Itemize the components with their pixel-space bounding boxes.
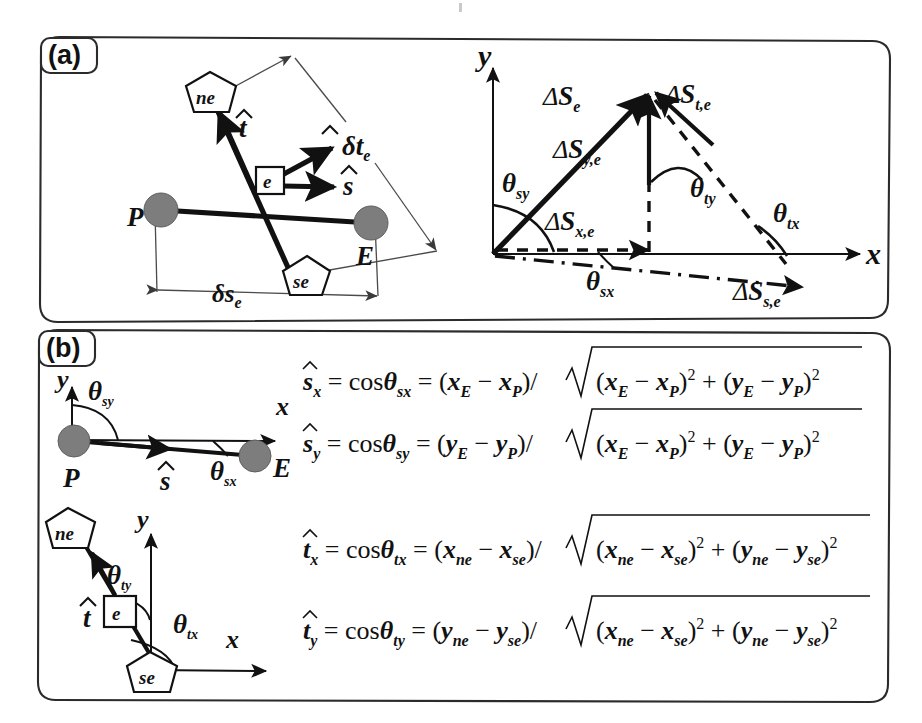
pentagon-se-b-label: se	[138, 667, 155, 688]
equation-s-hat-y-text: sy = cosθsy = (yE − yP)/	[302, 429, 534, 463]
node-P-dot-b	[58, 425, 90, 457]
delta-s-e-label: δse	[212, 280, 242, 311]
label-delta-S-y-e: ΔSy,e	[552, 134, 601, 169]
bracket-upper-left	[232, 56, 291, 88]
vector-s-hat-b-arrow	[100, 443, 170, 449]
axis-y-b2-label: y	[134, 505, 149, 534]
theta-tx-b-label: θtx	[173, 609, 198, 642]
dimension-line-ds	[158, 290, 377, 296]
pentagon-se-label: se	[292, 271, 309, 292]
equation-s-hat-x-text: sx = cosθsx = (xE − xP)/	[302, 367, 538, 400]
equation-t-hat-y: ty = cosθty = (yne − yse)/ (xne − xse)2 …	[303, 596, 870, 650]
axis-y-a-label: y	[475, 39, 492, 72]
arc-theta-tx	[758, 226, 787, 256]
t-hat-label-b: t	[83, 603, 92, 633]
axis-x-b2-label: x	[225, 625, 239, 654]
equation-s-hat-x: sx = cosθsx = (xE − xP)/ (xE − xP)2 + (y…	[302, 347, 862, 400]
pentagon-ne-b-label: ne	[55, 523, 75, 544]
panel-a: (a)	[0, 0, 890, 322]
dashed-t-direction	[655, 100, 786, 264]
pentagon-ne-label: ne	[196, 87, 216, 108]
node-P-label: P	[126, 202, 144, 232]
node-E-dot	[354, 206, 388, 240]
node-E-label-b: E	[272, 453, 291, 483]
figure-root: (a)	[0, 0, 922, 723]
node-P-label-b: P	[62, 463, 80, 493]
panel-a-right-diagram: y x θsy	[475, 39, 881, 310]
theta-sy-label: θsy	[502, 168, 530, 203]
bracket-n-dt-arrow	[375, 163, 436, 250]
theta-sx-b-label: θsx	[210, 456, 236, 489]
s-hat-label-b: s	[159, 466, 171, 496]
node-E-dot-b	[239, 440, 271, 472]
theta-ty-label: θty	[690, 173, 716, 208]
n-hat-arrow	[282, 148, 332, 175]
theta-tx-label: θtx	[773, 198, 799, 232]
panel-b-t-diagram: y x θty θtx ne se	[46, 505, 266, 692]
axis-x-b1	[72, 440, 275, 441]
equation-t-hat-y-text: ty = cosθty = (yne − yse)/	[303, 616, 538, 650]
s-hat-label: s	[342, 171, 354, 201]
panel-b-equations: sx = cosθsx = (xE − xP)/ (xE − xP)2 + (y…	[302, 347, 870, 650]
label-delta-S-x-e: ΔSx,e	[544, 206, 594, 240]
equation-s-hat-x-radicand: (xE − xP)2 + (yE − yP)2	[596, 366, 820, 400]
theta-ty-b-label: θty	[107, 560, 132, 593]
equation-t-hat-y-radicand: (xne − xse)2 + (yne − yse)2	[596, 615, 837, 649]
label-delta-S-t-e: ΔSt,e	[664, 79, 711, 113]
node-E-label: E	[355, 241, 374, 271]
equation-t-hat-x-radicand: (xne − xse)2 + (yne − yse)2	[596, 534, 837, 568]
panel-b-s-diagram: y x θsy θsx P E s	[54, 365, 291, 496]
label-delta-S-e: ΔSe	[542, 81, 580, 115]
bracket-right-slant	[295, 58, 346, 122]
panel-b-tag: (b)	[46, 333, 80, 363]
theta-sy-b-label: θsy	[88, 376, 114, 409]
s-hat-arrow	[283, 186, 334, 187]
equation-t-hat-x: tx = cosθtx = (xne − xse)/ (xne − xse)2 …	[303, 515, 870, 568]
axis-x-a-label: x	[865, 237, 881, 270]
label-delta-S-s-e: ΔSs,e	[732, 276, 781, 310]
axis-x-b1-label: x	[275, 392, 289, 421]
element-e-b-label: e	[112, 603, 121, 624]
axis-y-b1-label: y	[54, 365, 69, 394]
scan-artifact	[459, 3, 462, 12]
equation-s-hat-y-radicand: (xE − xP)2 + (yE − yP)2	[596, 428, 820, 462]
figure-svg: (a)	[0, 0, 922, 723]
panel-b: (b) y x θsy θsx P	[38, 330, 890, 702]
delta-t-e-label: δte	[342, 131, 370, 164]
equation-t-hat-x-text: tx = cosθtx = (xne − xse)/	[303, 535, 543, 568]
equation-s-hat-y: sy = cosθsy = (yE − yP)/ (xE − xP)2 + (y…	[302, 409, 862, 463]
n-hat-hat-icon	[322, 126, 338, 134]
t-hat-label: t	[239, 113, 248, 143]
node-P-dot	[144, 193, 178, 227]
theta-sx-label: θsx	[586, 266, 614, 300]
panel-a-tag: (a)	[48, 40, 81, 70]
t-hat-arrow	[219, 112, 255, 193]
element-e-label: e	[263, 171, 272, 192]
